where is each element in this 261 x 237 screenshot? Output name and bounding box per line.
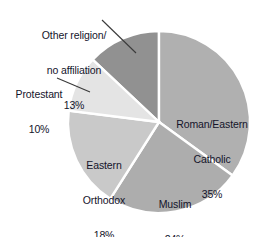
slice-label-roman-eastern-catholic-line1: Roman/Eastern	[170, 119, 254, 131]
slice-value-protestant: 10%	[2, 124, 76, 136]
slice-label-eastern-orthodox: Eastern Orthodox 18%	[66, 137, 142, 237]
slice-value-eastern-orthodox: 18%	[66, 230, 142, 237]
pie-chart: Other religion/ no affiliation 13% Prote…	[0, 0, 261, 237]
slice-label-muslim: Muslim 24%	[140, 176, 210, 237]
slice-label-protestant: Protestant 10%	[2, 66, 76, 159]
slice-label-eastern-orthodox-line2: Orthodox	[66, 195, 142, 207]
slice-value-muslim: 24%	[140, 234, 210, 237]
slice-label-muslim-line1: Muslim	[140, 199, 210, 211]
slice-label-roman-eastern-catholic-line2: Catholic	[170, 154, 254, 166]
slice-label-other-religion-line1: Other religion/	[22, 30, 126, 42]
slice-label-eastern-orthodox-line1: Eastern	[66, 160, 142, 172]
slice-label-protestant-line1: Protestant	[2, 89, 76, 101]
